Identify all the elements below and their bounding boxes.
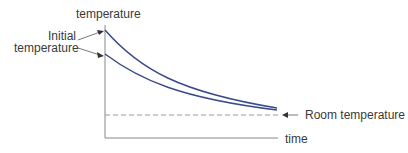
lower-cooling-curve [105, 54, 277, 110]
room-temperature-label: Room temperature [305, 109, 405, 122]
arrow-to-upper-initial [78, 32, 100, 40]
arrowhead-icon [97, 30, 104, 35]
upper-cooling-curve [105, 30, 277, 108]
arrowhead-icon [282, 112, 288, 118]
arrowhead-icon [97, 52, 104, 58]
initial-temperature-label-line2: temperature [14, 42, 79, 55]
arrow-to-lower-initial [78, 48, 100, 55]
x-axis-label: time [285, 133, 308, 146]
cooling-curve-diagram [0, 0, 408, 153]
y-axis-label: temperature [76, 8, 141, 21]
